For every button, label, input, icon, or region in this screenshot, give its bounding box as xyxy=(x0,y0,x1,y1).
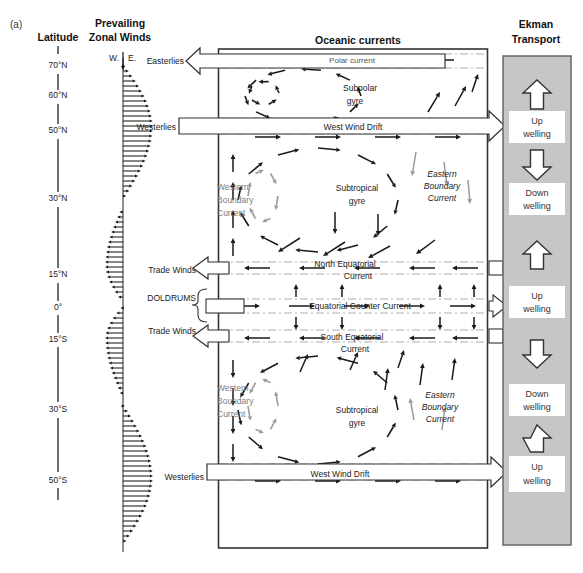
label-subtropical-gyre-south-line1: Subtropical xyxy=(336,405,379,415)
label-polar-current: Polar current xyxy=(329,56,376,65)
trade-winds-north-arrow xyxy=(193,257,229,279)
label-west-wind-drift-north: West Wind Drift xyxy=(324,122,384,132)
diagram-canvas: (a) Latitude 70°N 60°N 50°N 30°N 15°N 0°… xyxy=(0,0,583,573)
south-equatorial-arrow-tail xyxy=(489,329,503,343)
figure-label: (a) xyxy=(10,19,22,30)
label-subtropical-gyre-south-line2: gyre xyxy=(349,418,366,428)
label-equatorial-counter-current: Equatorial Counter Current xyxy=(309,301,411,311)
label-subpolar-gyre-line2: gyre xyxy=(347,96,364,106)
wind-column-title-line1: Prevailing xyxy=(95,17,145,29)
label-north-equatorial-line1: North Equatorial xyxy=(314,259,376,269)
ekman-box2-line2: welling xyxy=(522,201,551,211)
ekman-box2-line1: Down xyxy=(525,188,548,198)
label-western-boundary-south-line3: Current xyxy=(217,409,246,419)
ekman-column-title-line1: Ekman xyxy=(519,18,553,30)
ekman-box1-line1: Up xyxy=(531,116,543,126)
label-western-boundary-south-line2: Boundary xyxy=(217,396,254,406)
label-eastern-boundary-south-line3: Current xyxy=(426,414,455,424)
zone-label-doldrums: DOLDRUMS xyxy=(147,293,196,303)
trade-winds-south-arrow xyxy=(193,325,229,347)
zone-label-trade-winds-north: Trade Winds xyxy=(148,265,196,275)
latitude-column-title: Latitude xyxy=(38,31,79,43)
label-north-equatorial-line2: Current xyxy=(344,271,373,281)
label-subtropical-gyre-north-line1: Subtropical xyxy=(336,183,379,193)
wind-axis-east-label: E. xyxy=(128,53,136,63)
zone-label-westerlies-north: Westerlies xyxy=(136,122,176,132)
latitude-tick-30n: 30°N xyxy=(49,193,68,203)
label-subpolar-gyre-line1: Subpolar xyxy=(343,83,377,93)
latitude-tick-70n: 70°N xyxy=(49,60,68,70)
latitude-tick-60n: 60°N xyxy=(49,90,68,100)
ekman-box4-line1: Down xyxy=(525,389,548,399)
label-western-boundary-south-line1: Western xyxy=(217,383,249,393)
label-western-boundary-north-line1: Western xyxy=(217,182,249,192)
latitude-tick-15s: 15°S xyxy=(49,334,68,344)
ekman-box5-line1: Up xyxy=(531,462,543,472)
label-subtropical-gyre-north-line2: gyre xyxy=(349,196,366,206)
label-eastern-boundary-south-line1: Eastern xyxy=(425,390,455,400)
label-eastern-boundary-north-line3: Current xyxy=(428,193,457,203)
ekman-box3-line2: welling xyxy=(522,304,551,314)
ekman-box1-line2: welling xyxy=(522,129,551,139)
label-west-wind-drift-south: West Wind Drift xyxy=(311,469,371,479)
label-south-equatorial-line2: Current xyxy=(341,344,370,354)
ocean-panel-title: Oceanic currents xyxy=(315,34,401,46)
latitude-tick-15n: 15°N xyxy=(49,269,68,279)
latitude-tick-0: 0° xyxy=(54,302,62,312)
wind-column-title-line2: Zonal Winds xyxy=(89,31,151,43)
zone-label-easterlies: Easterlies xyxy=(147,56,184,66)
counter-current-arrow-tail xyxy=(206,299,244,313)
latitude-tick-50n: 50°N xyxy=(49,125,68,135)
wind-axis-west-label: W. xyxy=(109,53,119,63)
zone-label-trade-winds-south: Trade Winds xyxy=(148,326,196,336)
label-south-equatorial-line1: South Equatorial xyxy=(321,332,384,342)
label-western-boundary-north-line3: Current xyxy=(217,208,246,218)
latitude-tick-30s: 30°S xyxy=(49,404,68,414)
zone-label-westerlies-south: Westerlies xyxy=(164,472,204,482)
ekman-box5-line2: welling xyxy=(522,476,551,486)
ocean-circulation-diagram: (a) Latitude 70°N 60°N 50°N 30°N 15°N 0°… xyxy=(0,0,583,573)
latitude-tick-50s: 50°S xyxy=(49,475,68,485)
label-eastern-boundary-north-line1: Eastern xyxy=(427,169,457,179)
ekman-box3-line1: Up xyxy=(531,291,543,301)
label-western-boundary-north-line2: Boundary xyxy=(217,195,254,205)
label-eastern-boundary-north-line2: Boundary xyxy=(424,181,461,191)
north-equatorial-arrow-tail xyxy=(489,261,503,275)
label-eastern-boundary-south-line2: Boundary xyxy=(422,402,459,412)
ekman-box4-line2: welling xyxy=(522,402,551,412)
ekman-column-title-line2: Transport xyxy=(512,33,561,45)
